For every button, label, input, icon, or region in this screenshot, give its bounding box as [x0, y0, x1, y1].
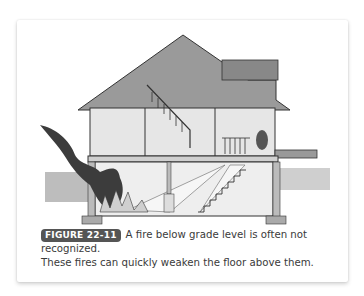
- shingle-roof: [222, 60, 278, 80]
- figure-caption: FIGURE 22-11A fire below grade level is …: [41, 228, 341, 270]
- floor: [88, 156, 278, 162]
- figure-label-badge: FIGURE 22-11: [41, 229, 121, 242]
- caption-line-2: These fires can quickly weaken the floor…: [41, 257, 314, 268]
- ground-right: [275, 168, 330, 190]
- firefighter: [256, 130, 268, 150]
- upper-floor: [90, 108, 275, 156]
